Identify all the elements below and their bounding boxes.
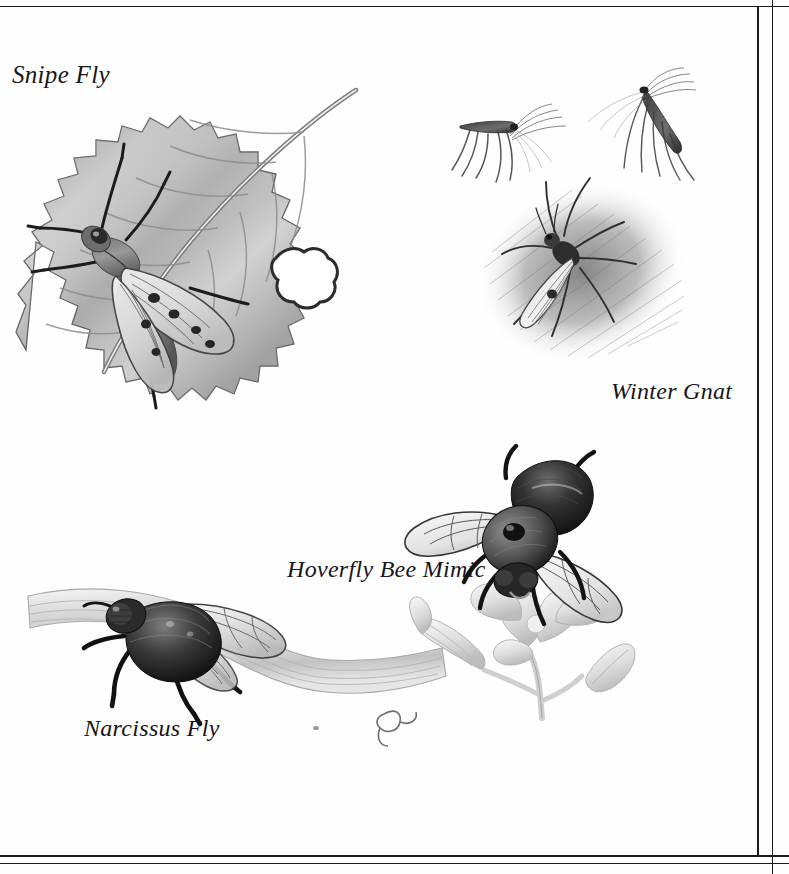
figure-winter-gnat	[432, 72, 732, 372]
caption-narcissus-fly: Narcissus Fly	[84, 715, 220, 742]
figure-snipe-fly	[4, 62, 360, 420]
leaf-hole	[272, 249, 338, 308]
caption-hoverfly-bee-mimic: Hoverfly Bee Mimic	[287, 556, 486, 583]
flower-bud	[586, 644, 635, 692]
vertical-rule-right-outer	[772, 0, 773, 874]
withered-leaf-tip	[377, 711, 416, 746]
illustration-plate-page: Snipe Fly Winter Gnat Hoverfly Bee Mimic…	[0, 0, 789, 874]
gnat-flying-right	[588, 68, 696, 180]
horizontal-rule-bottom-outer	[0, 855, 789, 857]
horizontal-rule-bottom-inner	[0, 863, 789, 864]
caption-winter-gnat: Winter Gnat	[611, 378, 732, 405]
figure-narcissus-fly	[28, 562, 448, 782]
gnat-flying-left	[452, 104, 566, 182]
horizontal-rule-top	[0, 6, 789, 7]
caption-snipe-fly: Snipe Fly	[12, 61, 110, 89]
vertical-rule-right-inner	[757, 6, 759, 856]
